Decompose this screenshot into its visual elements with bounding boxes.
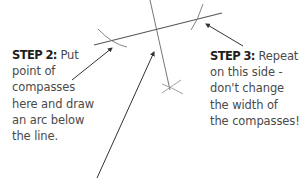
point-arrow	[97, 52, 154, 178]
step3-heading: STEP 3:	[210, 49, 255, 63]
step3-line-2: don't change	[210, 80, 300, 96]
step3-arrow	[206, 24, 243, 46]
step2-line-0: STEP 2: Put	[12, 47, 94, 63]
perpendicular-line	[150, 0, 170, 90]
step3-line-3: the width of	[210, 97, 300, 113]
step2-heading: STEP 2:	[12, 48, 57, 62]
step2-line-2: compasses	[12, 79, 94, 95]
step2-label: STEP 2: Put point of compasses here and …	[12, 47, 94, 144]
step3-line-1: on this side -	[210, 64, 300, 80]
step2-text: Put	[60, 48, 78, 62]
step3-text: Repeat	[258, 49, 298, 63]
step3-line-4: the compasses!	[210, 113, 300, 129]
step2-line-3: here and draw	[12, 96, 94, 112]
step2-line-4: an arc below	[12, 112, 94, 128]
main-line	[94, 13, 222, 45]
step3-line-0: STEP 3: Repeat	[210, 48, 300, 64]
step2-line-5: the line.	[12, 128, 94, 144]
step2-line-1: point of	[12, 63, 94, 79]
step3-label: STEP 3: Repeat on this side - don't chan…	[210, 48, 300, 129]
arc-right	[191, 4, 203, 30]
